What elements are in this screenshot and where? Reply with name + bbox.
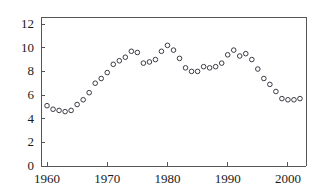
data-point xyxy=(159,49,164,54)
scatter-chart-figure: 024681012 19601970198019902000 xyxy=(0,0,321,196)
data-point xyxy=(207,66,212,71)
data-point xyxy=(219,61,224,66)
data-point xyxy=(51,107,56,112)
x-tick-label: 1980 xyxy=(137,172,197,185)
x-tick-label: 2000 xyxy=(258,172,318,185)
data-point-series xyxy=(45,43,303,114)
data-point xyxy=(268,82,273,87)
plot-canvas xyxy=(0,0,321,196)
data-point xyxy=(147,60,152,65)
y-tick-label: 10 xyxy=(0,41,34,54)
data-point xyxy=(256,67,261,72)
x-tick-label: 1970 xyxy=(77,172,137,185)
axes-frame xyxy=(41,17,306,166)
data-point xyxy=(141,61,146,66)
data-point xyxy=(262,76,267,81)
y-tick-label: 4 xyxy=(0,112,34,125)
y-axis-ticks xyxy=(41,24,45,166)
data-point xyxy=(195,69,200,74)
data-point xyxy=(87,90,92,95)
data-point xyxy=(75,102,80,107)
x-axis-ticks xyxy=(47,162,288,166)
data-point xyxy=(250,57,255,62)
data-point xyxy=(171,48,176,53)
data-point xyxy=(213,64,218,69)
y-tick-label: 8 xyxy=(0,64,34,77)
y-tick-label: 12 xyxy=(0,17,34,30)
data-point xyxy=(69,108,74,113)
data-point xyxy=(153,57,158,62)
data-point xyxy=(135,50,140,55)
data-point xyxy=(99,76,104,81)
data-point xyxy=(286,97,291,102)
data-point xyxy=(189,69,194,74)
data-point xyxy=(123,55,128,60)
data-point xyxy=(93,81,98,86)
data-point xyxy=(117,58,122,63)
data-point xyxy=(243,51,248,56)
data-point xyxy=(292,97,297,102)
y-tick-label: 0 xyxy=(0,159,34,172)
data-point xyxy=(111,62,116,67)
data-point xyxy=(105,70,110,75)
x-tick-label: 1960 xyxy=(17,172,77,185)
data-point xyxy=(298,96,303,101)
data-point xyxy=(45,103,50,108)
data-point xyxy=(57,108,62,113)
data-point xyxy=(129,49,134,54)
data-point xyxy=(280,96,285,101)
data-point xyxy=(81,97,86,102)
data-point xyxy=(274,89,279,94)
data-point xyxy=(63,109,68,114)
data-point xyxy=(201,64,206,69)
data-point xyxy=(183,66,188,71)
data-point xyxy=(177,56,182,61)
data-point xyxy=(237,54,242,59)
data-point xyxy=(231,48,236,53)
y-tick-label: 2 xyxy=(0,135,34,148)
data-point xyxy=(165,43,170,48)
x-tick-label: 1990 xyxy=(198,172,258,185)
y-tick-label: 6 xyxy=(0,88,34,101)
data-point xyxy=(225,53,230,58)
